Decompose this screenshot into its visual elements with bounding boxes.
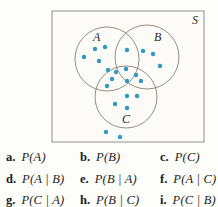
sample-point-dot bbox=[125, 94, 129, 98]
sample-point-dot bbox=[158, 64, 162, 68]
item-expression: P(C | A) bbox=[21, 193, 64, 207]
item-expression: P(B | A) bbox=[95, 172, 137, 186]
sample-point-dot bbox=[104, 130, 108, 134]
list-item: g.P(C | A) bbox=[6, 193, 80, 207]
item-letter: i. bbox=[160, 193, 167, 207]
item-letter: b. bbox=[80, 150, 90, 164]
item-letter: a. bbox=[6, 150, 15, 164]
item-expression: P(A | C) bbox=[173, 172, 216, 186]
list-item: f.P(A | C) bbox=[160, 172, 218, 187]
venn-diagram: SABC bbox=[0, 0, 218, 147]
item-expression: P(A) bbox=[21, 150, 45, 164]
sample-space-label: S bbox=[192, 13, 198, 27]
circle-label-C: C bbox=[122, 112, 131, 126]
sample-point-dot bbox=[93, 47, 97, 51]
sample-point-dot bbox=[105, 84, 109, 88]
sample-point-dot bbox=[125, 79, 129, 83]
sample-point-dot bbox=[125, 106, 129, 110]
sample-point-dot bbox=[124, 67, 128, 71]
list-item: h.P(B | C) bbox=[80, 193, 160, 207]
item-letter: e. bbox=[80, 172, 89, 186]
item-expression: P(C | B) bbox=[173, 193, 216, 207]
item-expression: P(B | C) bbox=[96, 193, 139, 207]
list-item: a.P(A) bbox=[6, 150, 80, 165]
list-item: b.P(B) bbox=[80, 150, 160, 165]
item-letter: d. bbox=[6, 172, 16, 186]
sample-point-dot bbox=[110, 77, 114, 81]
sample-point-dot bbox=[139, 79, 143, 83]
sample-point-dot bbox=[151, 52, 155, 56]
item-expression: P(B) bbox=[96, 150, 120, 164]
sample-point-dot bbox=[134, 73, 138, 77]
sample-point-dot bbox=[97, 59, 101, 63]
sample-point-dot bbox=[113, 102, 117, 106]
item-letter: h. bbox=[80, 193, 90, 207]
sample-point-dot bbox=[103, 45, 107, 49]
circle-label-B: B bbox=[154, 30, 162, 44]
sample-point-dot bbox=[125, 48, 129, 52]
sample-point-dot bbox=[118, 135, 122, 139]
sample-point-dot bbox=[106, 68, 110, 72]
sample-point-dot bbox=[82, 55, 86, 59]
item-letter: f. bbox=[160, 172, 167, 186]
item-expression: P(A | B) bbox=[22, 172, 64, 186]
list-item: d.P(A | B) bbox=[6, 172, 80, 187]
list-item: e.P(B | A) bbox=[80, 172, 160, 187]
list-item: c.P(C) bbox=[160, 150, 218, 165]
list-item: i.P(C | B) bbox=[160, 193, 218, 207]
sample-point-dot bbox=[135, 94, 139, 98]
sample-point-dot bbox=[114, 70, 118, 74]
circle-label-A: A bbox=[92, 30, 101, 44]
probability-list: a.P(A) b.P(B) c.P(C) d.P(A | B) e.P(B | … bbox=[0, 147, 218, 207]
sample-point-dot bbox=[141, 49, 145, 53]
item-letter: c. bbox=[160, 150, 169, 164]
figure: SABC a.P(A) b.P(B) c.P(C) d.P(A | B) e.P… bbox=[0, 0, 218, 207]
item-letter: g. bbox=[6, 193, 15, 207]
item-expression: P(C) bbox=[175, 150, 200, 164]
